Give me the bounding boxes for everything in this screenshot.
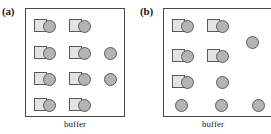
circle-particle-icon: [78, 20, 91, 33]
particle-bound-pair: [69, 72, 91, 87]
particle-free-circle: [216, 76, 229, 91]
particle-bound-pair: [207, 19, 229, 34]
circle-particle-icon: [78, 47, 91, 60]
panel-b: (b) buffer: [138, 0, 271, 134]
particle-bound-pair: [172, 19, 194, 34]
circle-particle-icon: [43, 99, 56, 112]
panel-a-label: (a): [2, 5, 14, 17]
particle-bound-pair: [34, 72, 56, 87]
particle-bound-pair: [207, 49, 229, 64]
circle-particle-icon: [216, 20, 229, 33]
particle-bound-pair: [34, 98, 56, 113]
circle-particle-icon: [104, 73, 117, 86]
circle-particle-icon: [181, 76, 194, 89]
particle-bound-pair: [172, 75, 194, 90]
panel-a-caption: buffer: [25, 119, 125, 130]
particle-free-circle: [104, 47, 117, 62]
circle-particle-icon: [175, 99, 188, 112]
circle-particle-icon: [246, 36, 259, 49]
particle-free-circle: [104, 73, 117, 88]
particle-free-circle: [175, 99, 188, 114]
panel-a-chamber: [25, 8, 125, 117]
circle-particle-icon: [104, 47, 117, 60]
particle-free-circle: [252, 99, 265, 114]
panel-b-chamber: [163, 8, 271, 117]
panel-a: (a) buffer: [0, 0, 135, 134]
circle-particle-icon: [252, 99, 265, 112]
particle-bound-pair: [34, 19, 56, 34]
panel-b-label: (b): [140, 5, 153, 17]
particle-free-circle: [215, 99, 228, 114]
particle-bound-pair: [69, 19, 91, 34]
circle-particle-icon: [216, 76, 229, 89]
panel-b-caption: buffer: [163, 119, 263, 130]
circle-particle-icon: [43, 73, 56, 86]
figure-container: (a) buffer (b) buffer: [0, 0, 271, 134]
particle-bound-pair: [69, 98, 91, 113]
particle-free-circle: [246, 36, 259, 51]
circle-particle-icon: [78, 99, 91, 112]
circle-particle-icon: [216, 50, 229, 63]
circle-particle-icon: [43, 20, 56, 33]
particle-bound-pair: [172, 49, 194, 64]
particle-bound-pair: [34, 46, 56, 61]
circle-particle-icon: [215, 99, 228, 112]
circle-particle-icon: [181, 20, 194, 33]
particle-bound-pair: [69, 46, 91, 61]
circle-particle-icon: [78, 73, 91, 86]
circle-particle-icon: [181, 50, 194, 63]
circle-particle-icon: [43, 47, 56, 60]
